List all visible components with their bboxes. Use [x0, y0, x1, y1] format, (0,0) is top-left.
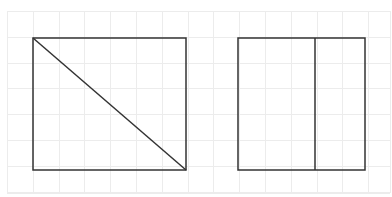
- canvas-background: [0, 0, 392, 197]
- diagram-canvas[interactable]: [0, 0, 392, 197]
